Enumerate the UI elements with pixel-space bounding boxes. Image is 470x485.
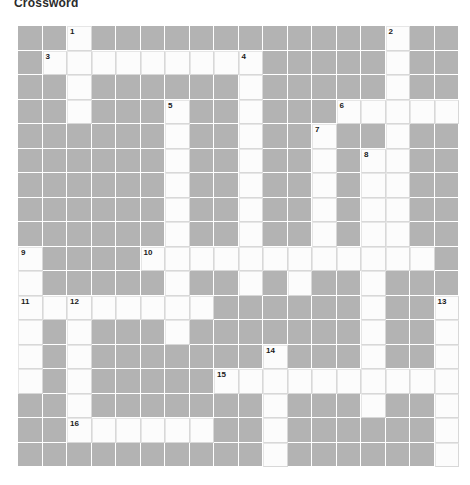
crossword-grid[interactable]: 12345678910111213141516 bbox=[18, 26, 459, 467]
crossword-cell-open[interactable] bbox=[92, 51, 117, 76]
crossword-cell-open[interactable] bbox=[165, 320, 190, 345]
crossword-cell-open[interactable] bbox=[435, 394, 460, 419]
crossword-cell-open[interactable] bbox=[67, 51, 92, 76]
crossword-cell-open[interactable] bbox=[239, 271, 264, 296]
crossword-cell-open[interactable] bbox=[18, 345, 43, 370]
crossword-cell-open[interactable]: 9 bbox=[18, 247, 43, 272]
crossword-cell-open[interactable] bbox=[361, 173, 386, 198]
crossword-cell-open[interactable] bbox=[165, 418, 190, 443]
crossword-cell-open[interactable]: 6 bbox=[337, 100, 362, 125]
crossword-cell-open[interactable] bbox=[386, 198, 411, 223]
crossword-cell-open[interactable] bbox=[165, 222, 190, 247]
crossword-cell-open[interactable] bbox=[18, 369, 43, 394]
crossword-cell-open[interactable] bbox=[141, 296, 166, 321]
crossword-cell-open[interactable] bbox=[435, 100, 460, 125]
crossword-cell-open[interactable] bbox=[165, 296, 190, 321]
crossword-cell-open[interactable] bbox=[67, 320, 92, 345]
crossword-cell-open[interactable] bbox=[67, 369, 92, 394]
crossword-cell-open[interactable] bbox=[312, 173, 337, 198]
crossword-cell-open[interactable] bbox=[386, 51, 411, 76]
crossword-cell-open[interactable]: 2 bbox=[386, 26, 411, 51]
crossword-cell-open[interactable]: 8 bbox=[361, 149, 386, 174]
crossword-cell-open[interactable] bbox=[165, 247, 190, 272]
crossword-cell-open[interactable] bbox=[92, 296, 117, 321]
crossword-cell-open[interactable] bbox=[386, 75, 411, 100]
crossword-cell-open[interactable] bbox=[337, 247, 362, 272]
crossword-cell-open[interactable] bbox=[190, 51, 215, 76]
crossword-cell-open[interactable] bbox=[288, 271, 313, 296]
crossword-cell-open[interactable]: 13 bbox=[435, 296, 460, 321]
crossword-cell-open[interactable] bbox=[288, 369, 313, 394]
crossword-cell-open[interactable]: 3 bbox=[43, 51, 68, 76]
crossword-cell-open[interactable]: 7 bbox=[312, 124, 337, 149]
crossword-cell-open[interactable] bbox=[361, 369, 386, 394]
crossword-cell-open[interactable] bbox=[312, 149, 337, 174]
crossword-cell-open[interactable]: 14 bbox=[263, 345, 288, 370]
crossword-cell-open[interactable] bbox=[312, 222, 337, 247]
crossword-cell-open[interactable] bbox=[312, 198, 337, 223]
crossword-cell-open[interactable]: 10 bbox=[141, 247, 166, 272]
crossword-cell-open[interactable] bbox=[361, 222, 386, 247]
crossword-cell-open[interactable]: 4 bbox=[239, 51, 264, 76]
crossword-cell-open[interactable] bbox=[386, 369, 411, 394]
crossword-cell-open[interactable] bbox=[43, 296, 68, 321]
crossword-cell-open[interactable] bbox=[288, 247, 313, 272]
crossword-cell-open[interactable] bbox=[410, 369, 435, 394]
crossword-cell-open[interactable] bbox=[239, 198, 264, 223]
crossword-cell-open[interactable] bbox=[435, 320, 460, 345]
crossword-cell-open[interactable] bbox=[312, 247, 337, 272]
crossword-cell-open[interactable] bbox=[410, 247, 435, 272]
crossword-cell-open[interactable] bbox=[361, 320, 386, 345]
crossword-cell-open[interactable] bbox=[239, 100, 264, 125]
crossword-cell-open[interactable]: 11 bbox=[18, 296, 43, 321]
crossword-cell-open[interactable] bbox=[386, 124, 411, 149]
crossword-cell-open[interactable] bbox=[361, 296, 386, 321]
crossword-cell-open[interactable] bbox=[190, 418, 215, 443]
crossword-cell-open[interactable] bbox=[165, 51, 190, 76]
crossword-cell-open[interactable] bbox=[214, 51, 239, 76]
crossword-cell-open[interactable] bbox=[67, 394, 92, 419]
crossword-cell-open[interactable] bbox=[263, 418, 288, 443]
crossword-cell-open[interactable] bbox=[386, 222, 411, 247]
crossword-cell-open[interactable] bbox=[165, 198, 190, 223]
crossword-cell-open[interactable] bbox=[67, 75, 92, 100]
crossword-cell-open[interactable] bbox=[239, 247, 264, 272]
crossword-cell-open[interactable] bbox=[239, 149, 264, 174]
crossword-cell-open[interactable]: 16 bbox=[67, 418, 92, 443]
crossword-cell-open[interactable] bbox=[435, 345, 460, 370]
crossword-cell-open[interactable] bbox=[116, 51, 141, 76]
crossword-cell-open[interactable] bbox=[141, 418, 166, 443]
crossword-cell-open[interactable] bbox=[165, 271, 190, 296]
crossword-cell-open[interactable] bbox=[239, 124, 264, 149]
crossword-cell-open[interactable] bbox=[165, 149, 190, 174]
crossword-cell-open[interactable]: 1 bbox=[67, 26, 92, 51]
crossword-cell-open[interactable] bbox=[190, 247, 215, 272]
crossword-cell-open[interactable] bbox=[263, 394, 288, 419]
crossword-cell-open[interactable] bbox=[92, 418, 117, 443]
crossword-cell-open[interactable] bbox=[263, 247, 288, 272]
crossword-cell-open[interactable] bbox=[361, 247, 386, 272]
crossword-cell-open[interactable] bbox=[190, 296, 215, 321]
crossword-cell-open[interactable]: 15 bbox=[214, 369, 239, 394]
crossword-cell-open[interactable] bbox=[386, 100, 411, 125]
crossword-cell-open[interactable] bbox=[18, 320, 43, 345]
crossword-cell-open[interactable] bbox=[386, 149, 411, 174]
crossword-cell-open[interactable] bbox=[263, 369, 288, 394]
crossword-cell-open[interactable] bbox=[116, 418, 141, 443]
crossword-cell-open[interactable] bbox=[165, 124, 190, 149]
crossword-cell-open[interactable] bbox=[141, 51, 166, 76]
crossword-cell-open[interactable] bbox=[361, 271, 386, 296]
crossword-cell-open[interactable] bbox=[239, 75, 264, 100]
crossword-cell-open[interactable] bbox=[67, 100, 92, 125]
crossword-cell-open[interactable]: 5 bbox=[165, 100, 190, 125]
crossword-cell-open[interactable] bbox=[410, 100, 435, 125]
crossword-cell-open[interactable] bbox=[361, 345, 386, 370]
crossword-cell-open[interactable] bbox=[263, 443, 288, 468]
crossword-cell-open[interactable] bbox=[386, 173, 411, 198]
crossword-cell-open[interactable] bbox=[214, 247, 239, 272]
crossword-cell-open[interactable] bbox=[67, 345, 92, 370]
crossword-cell-open[interactable] bbox=[435, 418, 460, 443]
crossword-cell-open[interactable] bbox=[239, 173, 264, 198]
crossword-cell-open[interactable] bbox=[312, 369, 337, 394]
crossword-cell-open[interactable] bbox=[239, 222, 264, 247]
